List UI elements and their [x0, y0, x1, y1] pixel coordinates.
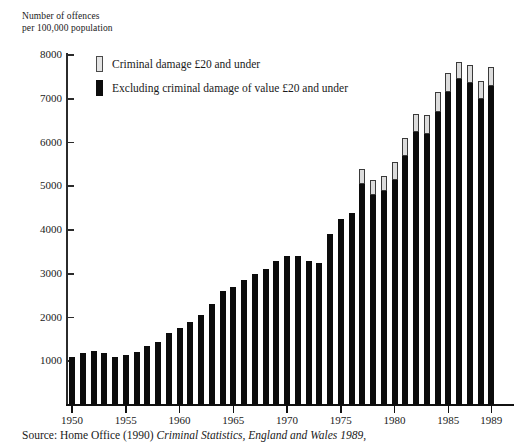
x-tick-label-1985: 1985: [437, 414, 459, 426]
bar-1976: [349, 213, 355, 406]
bar-1960: [177, 328, 183, 405]
bar-1953: [101, 353, 107, 406]
x-tick-1989: [491, 406, 493, 413]
x-tick-label-1975: 1975: [330, 414, 352, 426]
bar-1973: [316, 263, 322, 405]
bar-1968: [263, 269, 269, 405]
bar-1966: [241, 280, 247, 405]
bar-1986: [456, 62, 462, 405]
bar-segment-excluding-criminal-damage: [467, 83, 473, 405]
bar-1952: [91, 351, 97, 405]
bar-segment-excluding-criminal-damage: [144, 346, 150, 405]
bar-segment-excluding-criminal-damage: [295, 256, 301, 405]
y-tick-label-5000: 5000: [18, 180, 62, 191]
x-tick-1985: [448, 406, 450, 413]
bar-1974: [327, 234, 333, 405]
bar-1959: [166, 333, 172, 405]
bar-segment-criminal-damage-under-20: [424, 115, 430, 134]
x-tick-1970: [286, 406, 288, 413]
bar-segment-excluding-criminal-damage: [101, 353, 107, 406]
bar-1970: [284, 256, 290, 405]
source-publication-title: Criminal Statistics, England and Wales 1…: [157, 429, 364, 441]
bar-segment-excluding-criminal-damage: [112, 357, 118, 405]
bar-segment-criminal-damage-under-20: [478, 81, 484, 99]
bar-segment-excluding-criminal-damage: [488, 86, 494, 405]
bar-segment-excluding-criminal-damage: [316, 263, 322, 405]
bar-segment-excluding-criminal-damage: [241, 280, 247, 405]
bar-segment-excluding-criminal-damage: [327, 234, 333, 405]
bar-segment-excluding-criminal-damage: [220, 291, 226, 405]
x-tick-1980: [394, 406, 396, 413]
x-tick-label-1980: 1980: [384, 414, 406, 426]
bar-1980: [392, 162, 398, 405]
bar-segment-excluding-criminal-damage: [230, 287, 236, 405]
bar-segment-criminal-damage-under-20: [488, 67, 494, 85]
bar-segment-excluding-criminal-damage: [69, 357, 75, 405]
y-tick-label-4000: 4000: [18, 224, 62, 235]
bar-segment-excluding-criminal-damage: [478, 99, 484, 405]
bar-segment-criminal-damage-under-20: [402, 138, 408, 156]
x-tick-label-1970: 1970: [276, 414, 298, 426]
bar-segment-excluding-criminal-damage: [177, 328, 183, 405]
x-tick-label-1989: 1989: [480, 414, 502, 426]
x-tick-1975: [340, 406, 342, 413]
bar-segment-excluding-criminal-damage: [381, 191, 387, 405]
bar-1985: [445, 73, 451, 406]
bar-1965: [230, 287, 236, 405]
x-tick-1950: [71, 406, 73, 413]
bar-segment-excluding-criminal-damage: [187, 322, 193, 405]
x-tick-1955: [125, 406, 127, 413]
bar-segment-excluding-criminal-damage: [91, 351, 97, 405]
offences-bar-chart-figure: Number of offences per 100,000 populatio…: [0, 0, 524, 447]
bar-segment-excluding-criminal-damage: [209, 304, 215, 405]
bar-segment-excluding-criminal-damage: [445, 92, 451, 405]
bar-segment-excluding-criminal-damage: [306, 261, 312, 405]
bar-segment-criminal-damage-under-20: [467, 65, 473, 84]
bar-segment-criminal-damage-under-20: [445, 73, 451, 93]
bar-segment-criminal-damage-under-20: [370, 180, 376, 195]
bar-1975: [338, 219, 344, 405]
bar-segment-excluding-criminal-damage: [198, 315, 204, 405]
x-tick-label-1965: 1965: [222, 414, 244, 426]
source-suffix: ,: [363, 429, 366, 441]
bar-1955: [123, 355, 129, 405]
x-tick-label-1950: 1950: [61, 414, 83, 426]
bar-segment-excluding-criminal-damage: [273, 261, 279, 405]
bar-1972: [306, 261, 312, 405]
y-tick-label-2000: 2000: [18, 312, 62, 323]
bar-1978: [370, 180, 376, 405]
bar-1987: [467, 65, 473, 405]
bar-segment-excluding-criminal-damage: [349, 213, 355, 406]
legend-item-dark: Excluding criminal damage of value £20 a…: [96, 76, 426, 100]
bar-segment-criminal-damage-under-20: [456, 62, 462, 80]
y-tick-label-3000: 3000: [18, 268, 62, 279]
y-tick-label-8000: 8000: [18, 49, 62, 60]
bar-1983: [424, 115, 430, 405]
bar-segment-excluding-criminal-damage: [424, 134, 430, 405]
bar-segment-excluding-criminal-damage: [166, 333, 172, 405]
bar-1984: [435, 92, 441, 405]
bar-1962: [198, 315, 204, 405]
source-prefix: Source: Home Office (1990): [22, 429, 157, 441]
bar-1963: [209, 304, 215, 405]
y-tick-label-1000: 1000: [18, 355, 62, 366]
legend-label-light: Criminal damage £20 and under: [112, 58, 260, 71]
bar-segment-excluding-criminal-damage: [80, 353, 86, 406]
bar-1967: [252, 274, 258, 405]
bar-1969: [273, 261, 279, 405]
x-tick-label-1955: 1955: [115, 414, 137, 426]
bar-segment-criminal-damage-under-20: [381, 176, 387, 190]
y-axis-labels: 10002000300040005000600070008000: [12, 0, 62, 447]
bar-segment-excluding-criminal-damage: [359, 184, 365, 405]
y-tick-label-7000: 7000: [18, 93, 62, 104]
bar-segment-excluding-criminal-damage: [123, 355, 129, 405]
x-tick-1965: [233, 406, 235, 413]
x-tick-label-1960: 1960: [169, 414, 191, 426]
plot-area: [67, 52, 514, 405]
legend-item-light: Criminal damage £20 and under: [96, 52, 426, 76]
bar-segment-criminal-damage-under-20: [392, 162, 398, 180]
bar-1979: [381, 176, 387, 405]
bar-segment-excluding-criminal-damage: [370, 195, 376, 405]
legend-label-dark: Excluding criminal damage of value £20 a…: [112, 82, 348, 95]
bar-segment-excluding-criminal-damage: [456, 79, 462, 405]
